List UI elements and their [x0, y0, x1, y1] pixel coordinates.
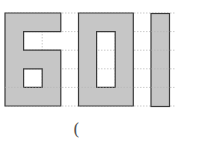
digit-zero-shape — [79, 13, 134, 106]
digit-grid-figure — [0, 0, 213, 144]
answer-parenthesis: ( — [73, 121, 80, 138]
digit-six-shape — [5, 13, 61, 106]
digit-one-shape — [151, 14, 170, 107]
